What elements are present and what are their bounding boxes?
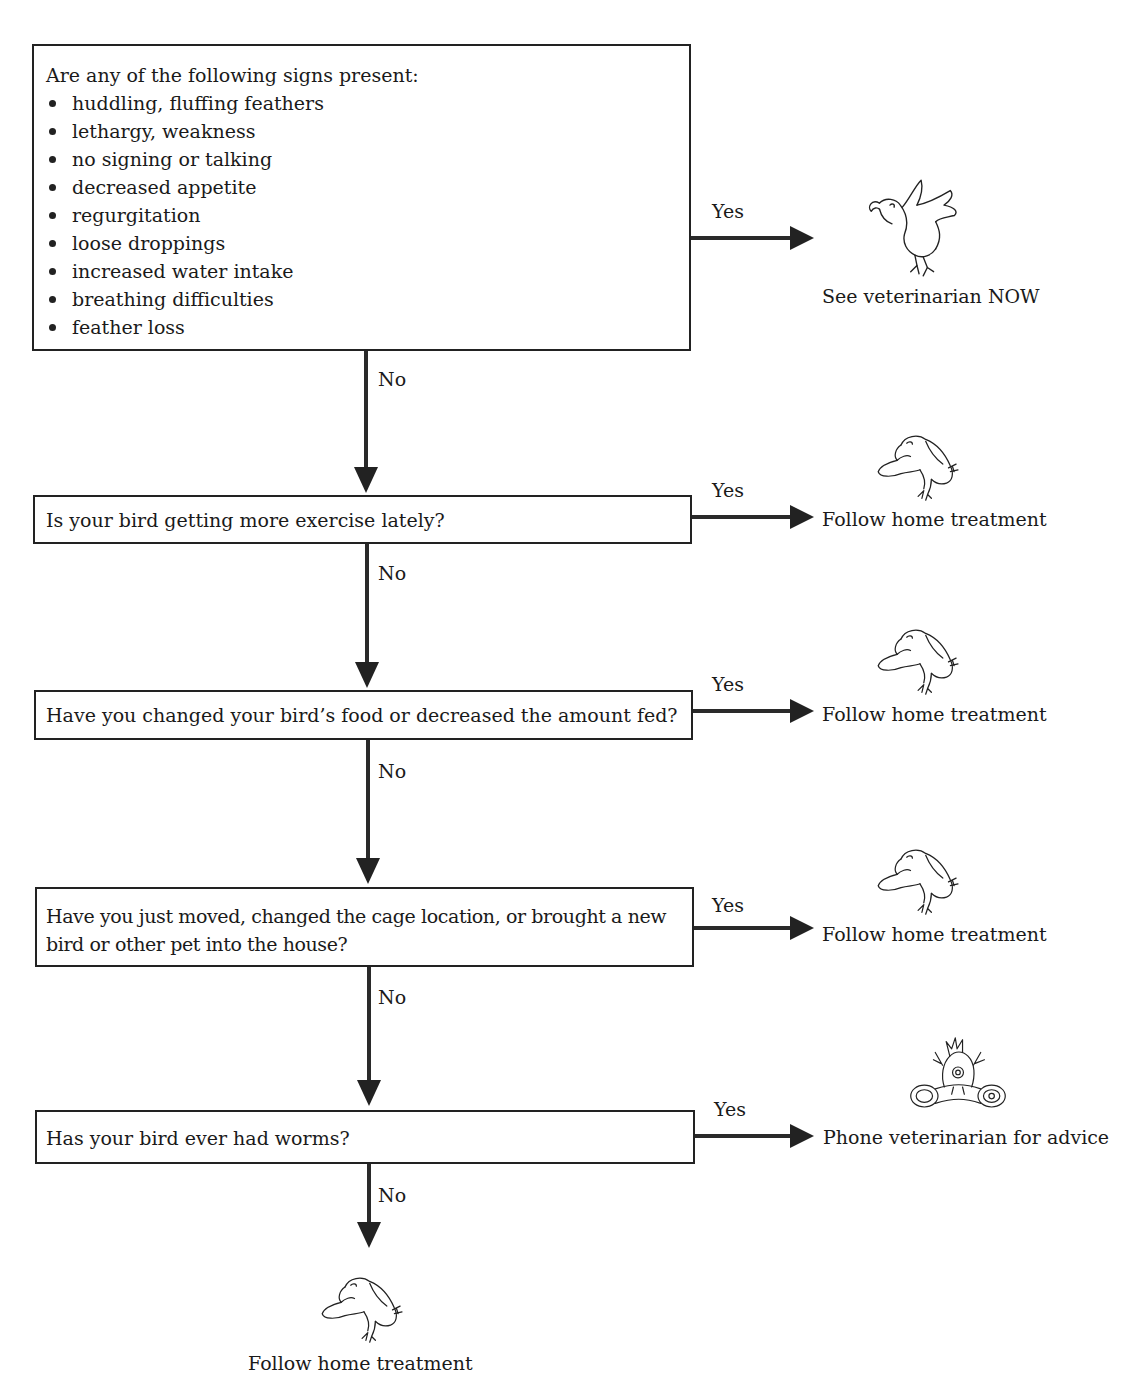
arrow-right-icon — [790, 505, 814, 529]
yes-label: Yes — [712, 200, 744, 222]
question-box-signs: Are any of the following signs present: … — [32, 44, 691, 351]
sad-bird-icon — [872, 842, 968, 918]
yes-connector — [692, 515, 792, 519]
yes-connector — [695, 1134, 792, 1138]
yes-connector — [694, 926, 792, 930]
no-connector — [364, 351, 368, 471]
yes-label: Yes — [712, 894, 744, 916]
sign-item: increased water intake — [46, 257, 679, 285]
yes-label: Yes — [714, 1098, 746, 1120]
no-label: No — [378, 368, 406, 390]
sign-item: loose droppings — [46, 229, 679, 257]
signs-question: Are any of the following signs present: — [46, 61, 679, 89]
no-label: No — [378, 986, 406, 1008]
sign-item: feather loss — [46, 313, 679, 341]
yes-label: Yes — [712, 479, 744, 501]
question-box-environment: Have you just moved, changed the cage lo… — [35, 887, 694, 967]
question-box-food: Have you changed your bird’s food or dec… — [34, 690, 693, 740]
arrow-down-icon — [354, 467, 378, 493]
no-connector — [366, 740, 370, 862]
sign-item: lethargy, weakness — [46, 117, 679, 145]
alarmed-bird-icon — [860, 176, 976, 280]
yes-connector — [691, 236, 793, 240]
arrow-right-icon — [790, 226, 814, 250]
sign-item: decreased appetite — [46, 173, 679, 201]
arrow-right-icon — [790, 916, 814, 940]
no-label: No — [378, 562, 406, 584]
yes-label: Yes — [712, 673, 744, 695]
yes-connector — [693, 709, 792, 713]
sign-item: breathing difficulties — [46, 285, 679, 313]
signs-list: huddling, fluffing feathers lethargy, we… — [46, 89, 679, 341]
sad-bird-icon — [872, 622, 968, 698]
no-connector — [367, 967, 371, 1084]
bird-on-phone-icon — [908, 1036, 1008, 1118]
sign-item: regurgitation — [46, 201, 679, 229]
question-box-exercise: Is your bird getting more exercise latel… — [33, 495, 692, 544]
environment-question-line1: Have you just moved, changed the cage lo… — [46, 902, 682, 930]
environment-question-line2: bird or other pet into the house? — [46, 930, 682, 958]
sign-item: huddling, fluffing feathers — [46, 89, 679, 117]
outcome-home-treatment: Follow home treatment — [248, 1352, 473, 1374]
food-question: Have you changed your bird’s food or dec… — [46, 701, 681, 729]
sad-bird-icon — [316, 1270, 412, 1346]
arrow-down-icon — [357, 1080, 381, 1106]
arrow-down-icon — [356, 858, 380, 884]
exercise-question: Is your bird getting more exercise latel… — [46, 506, 680, 534]
no-label: No — [378, 760, 406, 782]
sad-bird-icon — [872, 428, 968, 504]
outcome-home-treatment: Follow home treatment — [822, 508, 1047, 530]
outcome-home-treatment: Follow home treatment — [822, 703, 1047, 725]
arrow-right-icon — [790, 699, 814, 723]
no-label: No — [378, 1184, 406, 1206]
arrow-down-icon — [355, 662, 379, 688]
worms-question: Has your bird ever had worms? — [46, 1124, 683, 1152]
sign-item: no signing or talking — [46, 145, 679, 173]
outcome-home-treatment: Follow home treatment — [822, 923, 1047, 945]
question-box-worms: Has your bird ever had worms? — [35, 1110, 695, 1164]
no-connector — [367, 1164, 371, 1226]
arrow-down-icon — [357, 1222, 381, 1248]
outcome-see-vet-now: See veterinarian NOW — [822, 285, 1040, 307]
arrow-right-icon — [790, 1124, 814, 1148]
no-connector — [365, 544, 369, 666]
outcome-phone-vet: Phone veterinarian for advice — [823, 1126, 1109, 1148]
